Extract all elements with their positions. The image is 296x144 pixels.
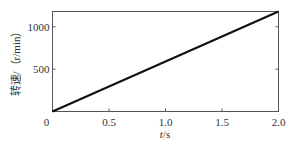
y-axis-label: 转速/（r/min） <box>9 26 22 97</box>
svg-text:1.5: 1.5 <box>215 116 229 128</box>
svg-text:1000: 1000 <box>28 21 51 33</box>
svg-text:500: 500 <box>33 63 50 75</box>
x-axis-label: t/s <box>160 128 170 140</box>
svg-text:1.0: 1.0 <box>159 116 173 128</box>
speed-line <box>53 12 279 112</box>
svg-text:2.0: 2.0 <box>272 116 286 128</box>
svg-text:0: 0 <box>44 116 50 128</box>
line-chart: 00.51.01.52.0 5001000 t/s 转速/（r/min） <box>0 0 296 144</box>
svg-text:0.5: 0.5 <box>102 116 116 128</box>
